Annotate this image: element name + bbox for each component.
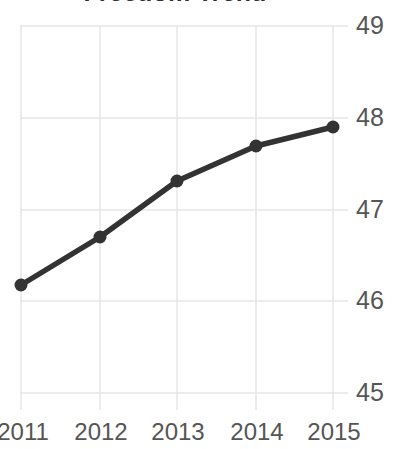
y-axis-tick-49: 49 — [356, 13, 395, 38]
vertical-gridlines — [21, 26, 333, 410]
data-point-2013 — [171, 175, 184, 188]
x-axis-tick-2014: 2014 — [222, 420, 292, 444]
x-axis-tick-2011: 2011 — [0, 420, 58, 444]
line-chart: Freedom Trend — [0, 0, 395, 449]
y-axis-tick-45: 45 — [356, 380, 395, 405]
data-point-2011 — [15, 279, 28, 292]
x-axis-tick-2015: 2015 — [299, 420, 369, 444]
data-point-2014 — [250, 140, 263, 153]
data-point-2015 — [327, 121, 340, 134]
plot-area — [0, 0, 395, 410]
plot-svg — [0, 0, 395, 410]
y-axis-tick-47: 47 — [356, 197, 395, 222]
x-axis-tick-2012: 2012 — [66, 420, 136, 444]
y-axis-tick-48: 48 — [356, 105, 395, 130]
x-axis-tick-2013: 2013 — [143, 420, 213, 444]
y-axis-tick-46: 46 — [356, 288, 395, 313]
horizontal-gridlines — [20, 26, 348, 393]
data-point-2012 — [94, 231, 107, 244]
